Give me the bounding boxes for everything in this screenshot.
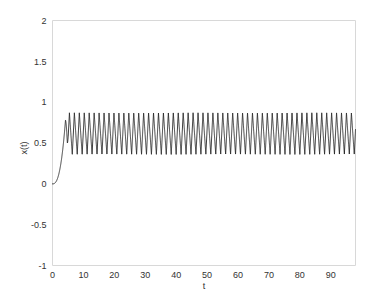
- x-tick-label: 60: [233, 270, 243, 280]
- x-tick-label: 50: [202, 270, 212, 280]
- x-tick-label: 70: [264, 270, 274, 280]
- x-tick-label: 20: [109, 270, 119, 280]
- x-tick-label: 80: [295, 270, 305, 280]
- y-tick-label: -1: [38, 261, 46, 271]
- x-tick-label: 0: [50, 270, 55, 280]
- x-tick-label: 40: [171, 270, 181, 280]
- y-tick-label: 0.5: [34, 138, 47, 148]
- line-chart: -1-0.500.511.52 0102030405060708090 t x(…: [0, 0, 371, 304]
- y-tick-label: 0: [41, 179, 46, 189]
- y-axis-title: x(t): [19, 142, 29, 155]
- x-tick-label: 30: [140, 270, 150, 280]
- figure-canvas: -1-0.500.511.52 0102030405060708090 t x(…: [0, 0, 371, 304]
- y-tick-label: 2: [41, 16, 46, 26]
- x-tick-label: 10: [78, 270, 88, 280]
- y-tick-label: -0.5: [31, 220, 47, 230]
- x-tick-label: 90: [326, 270, 336, 280]
- y-tick-label: 1.5: [34, 57, 47, 67]
- y-tick-label: 1: [41, 97, 46, 107]
